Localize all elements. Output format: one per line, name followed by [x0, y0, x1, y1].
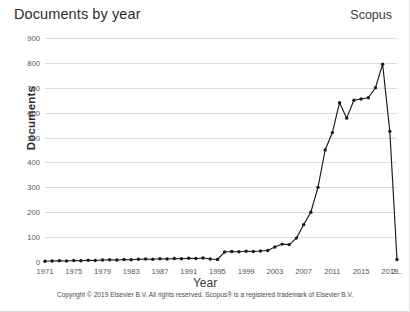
y-axis-label: Documents — [25, 63, 37, 173]
x-axis-tick-label: 1975 — [65, 267, 82, 276]
y-axis-tick-label: 500 — [27, 133, 40, 142]
x-axis-tick-label: 2007 — [295, 267, 312, 276]
y-axis-tick-label: 900 — [27, 34, 40, 43]
x-axis-tick-label: 1987 — [151, 267, 168, 276]
y-axis-tick-label: 100 — [27, 233, 40, 242]
chart-figure: Documents by year Scopus Documents 01002… — [0, 0, 410, 312]
y-axis-tick-label: 600 — [27, 108, 40, 117]
page-title: Documents by year — [14, 6, 141, 22]
x-axis-tick-label: 1971 — [37, 267, 54, 276]
x-axis-tick-label: 2003 — [266, 267, 283, 276]
x-axis-tick-label: 1999 — [238, 267, 255, 276]
x-axis-tick-label: 1995 — [209, 267, 226, 276]
y-axis-tick-label: 200 — [27, 208, 40, 217]
x-axis-tick-label: 2... — [392, 267, 403, 276]
x-axis-tick-label: 1983 — [123, 267, 140, 276]
x-axis-tick-label: 1979 — [94, 267, 111, 276]
plot-area: 0100200300400500600700800900 19711975197… — [45, 38, 397, 262]
brand-label: Scopus — [350, 8, 392, 22]
x-axis-tick-label: 1991 — [180, 267, 197, 276]
copyright-notice: Copyright © 2019 Elsevier B.V. All right… — [0, 291, 410, 298]
y-axis-tick-label: 300 — [27, 183, 40, 192]
x-axis-label: Year — [0, 276, 410, 290]
data-series — [45, 38, 397, 262]
x-axis-tick-label: 2015 — [353, 267, 370, 276]
y-axis-tick-label: 400 — [27, 158, 40, 167]
x-axis-tick-label: 2011 — [324, 267, 340, 276]
y-axis-tick-label: 0 — [36, 258, 40, 267]
y-axis-tick-label: 800 — [27, 58, 40, 67]
y-axis-tick-label: 700 — [27, 83, 40, 92]
